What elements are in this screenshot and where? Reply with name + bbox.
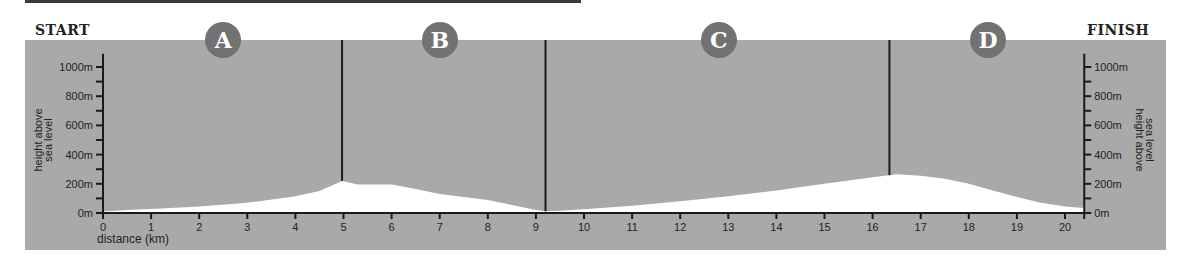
x-tick-label: 16 <box>866 221 878 233</box>
x-tick-label: 17 <box>915 221 927 233</box>
section-badge-b: B <box>422 22 458 58</box>
x-tick-label: 18 <box>963 221 975 233</box>
x-tick-label: 3 <box>244 221 250 233</box>
y-tick-label-right: 1000m <box>1094 61 1128 73</box>
x-tick-label: 11 <box>626 221 637 233</box>
section-badge-d: D <box>970 22 1006 58</box>
y-tick-label-left: 400m <box>65 149 93 161</box>
y-axis-title-line: sea level <box>42 118 54 161</box>
finish-label: FINISH <box>1087 22 1149 38</box>
x-tick-label: 15 <box>818 221 830 233</box>
y-tick-label-left: 1000m <box>59 61 93 73</box>
y-tick-label-left: 200m <box>65 178 93 190</box>
y-tick-label-right: 200m <box>1094 178 1122 190</box>
x-tick-label: 13 <box>722 221 734 233</box>
y-tick-label-right: 800m <box>1094 90 1122 102</box>
y-tick-label-left: 600m <box>65 119 93 131</box>
x-tick-label: 19 <box>1011 221 1023 233</box>
y-tick-label-left: 800m <box>65 90 93 102</box>
x-tick-label: 10 <box>578 221 590 233</box>
x-tick-label: 9 <box>533 221 539 233</box>
x-axis-label: distance (km) <box>97 232 169 246</box>
y-tick-label-right: 400m <box>1094 149 1122 161</box>
section-badge-c: C <box>701 22 737 58</box>
y-tick-label-right: 0m <box>1094 207 1109 219</box>
x-tick-label: 14 <box>770 221 782 233</box>
x-tick-label: 20 <box>1059 221 1071 233</box>
x-tick-label: 12 <box>674 221 686 233</box>
x-tick-label: 8 <box>485 221 491 233</box>
y-tick-label-left: 0m <box>78 207 93 219</box>
y-axis-title-line: sea level <box>1144 118 1156 161</box>
x-tick-label: 6 <box>389 221 395 233</box>
elevation-area <box>103 174 1084 213</box>
x-tick-label: 4 <box>292 221 298 233</box>
y-axis-title-right: height abovesea level <box>1134 109 1156 172</box>
start-label: START <box>35 22 90 38</box>
y-tick-label-right: 600m <box>1094 119 1122 131</box>
x-tick-label: 2 <box>196 221 202 233</box>
x-tick-label: 5 <box>340 221 346 233</box>
section-badge-a: A <box>205 22 241 58</box>
x-tick-label: 7 <box>437 221 443 233</box>
y-axis-title-left: height abovesea level <box>32 109 54 172</box>
